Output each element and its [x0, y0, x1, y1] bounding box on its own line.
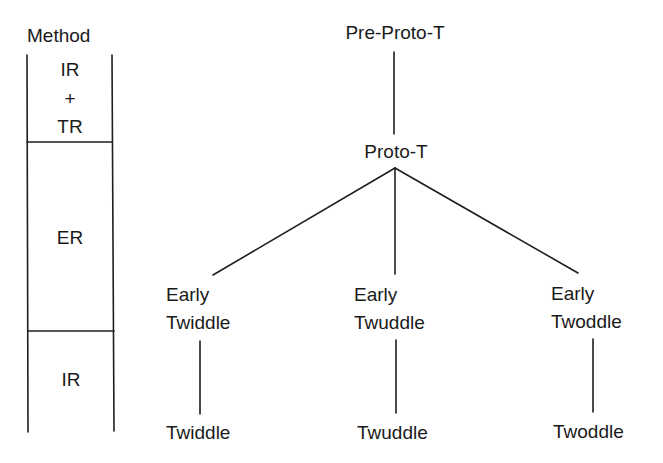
method-box-left-border — [27, 55, 28, 432]
method-cell-1-line-1: IR — [61, 59, 80, 81]
node-twiddle: Twiddle — [166, 422, 230, 444]
node-early-twiddle-line-1: Early — [166, 284, 209, 305]
node-early-twuddle-line-2: Twuddle — [354, 312, 425, 333]
node-early-twoddle-line-1: Early — [551, 283, 594, 304]
node-proto-t: Proto-T — [364, 141, 427, 163]
node-pre-proto-t: Pre-Proto-T — [345, 22, 444, 44]
method-cell-1-line-3: TR — [57, 116, 82, 138]
node-early-twuddle: Early Twuddle — [354, 281, 425, 337]
edge-proto-to-early-twiddle — [213, 168, 395, 275]
method-cell-1-line-2: + — [64, 88, 75, 110]
diagram-lines — [0, 0, 663, 463]
method-column-header: Method — [27, 25, 90, 47]
method-box-right-border — [112, 55, 114, 431]
node-early-twiddle: Early Twiddle — [166, 281, 230, 337]
node-twoddle: Twoddle — [553, 421, 624, 443]
node-twuddle: Twuddle — [357, 422, 428, 444]
node-early-twiddle-line-2: Twiddle — [166, 312, 230, 333]
node-early-twoddle: Early Twoddle — [551, 280, 622, 336]
method-cell-2: ER — [57, 227, 83, 249]
node-early-twuddle-line-1: Early — [354, 284, 397, 305]
method-cell-3: IR — [62, 369, 81, 391]
node-early-twoddle-line-2: Twoddle — [551, 311, 622, 332]
edge-proto-to-early-twoddle — [395, 168, 578, 273]
